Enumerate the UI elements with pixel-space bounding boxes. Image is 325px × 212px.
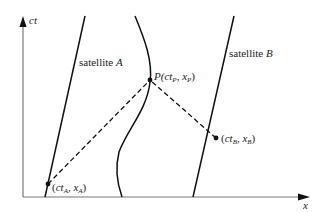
ct-axis: ct: [20, 14, 38, 197]
ct-axis-label: ct: [29, 14, 38, 26]
satellite-b-worldline: [193, 16, 234, 197]
x-axis: x: [23, 194, 310, 212]
event-a-dot: [46, 182, 51, 187]
satellite-b-label: satellite B: [229, 47, 273, 59]
spacetime-diagram: ct x satellite A satellite B P(ctP, xP) …: [0, 0, 325, 212]
satellite-a-worldline: [45, 16, 85, 197]
event-b-label: (ctB, xB): [221, 132, 256, 146]
signal-b-to-p: [150, 80, 216, 138]
event-p-dot: [148, 78, 153, 83]
event-a-label: (ctA, xA): [52, 181, 87, 195]
satellite-a-label: satellite A: [79, 56, 123, 68]
event-b-dot: [214, 136, 219, 141]
event-p-label: P(ctP, xP): [153, 70, 195, 84]
ct-axis-arrow-icon: [20, 16, 27, 27]
x-axis-label: x: [302, 199, 308, 211]
signal-a-to-p: [48, 80, 150, 184]
receiver-worldline: [117, 16, 151, 197]
